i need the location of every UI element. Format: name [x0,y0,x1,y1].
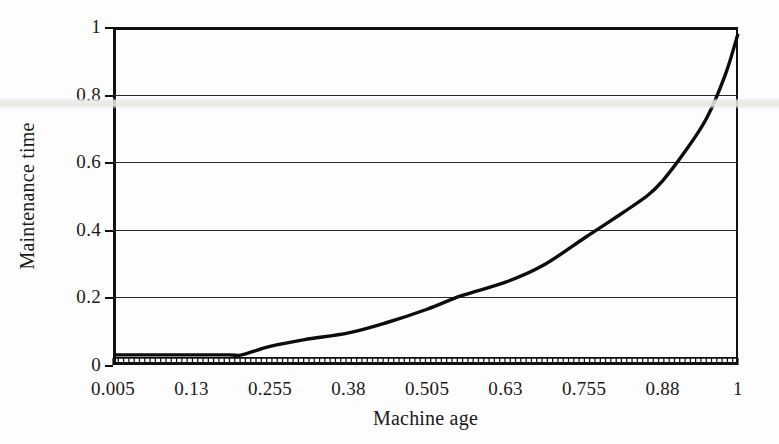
y-tick-label: 0.6 [76,151,101,173]
scanned-page-background: Maintenance time 00.20.40.60.81 0.0050.1… [0,0,779,444]
series-line-maintenance-time [113,34,738,356]
y-tick-mark [105,27,113,29]
y-tick-mark [105,162,113,164]
y-tick-label: 0 [91,354,101,376]
y-tick-mark [105,297,113,299]
x-tick-label: 0.005 [91,378,135,400]
x-tick-label: 0.755 [562,378,606,400]
x-tick-label: 0.13 [174,378,208,400]
y-tick-label: 0.2 [76,286,101,308]
y-tick-label: 0.4 [76,219,101,241]
x-tick-label: 0.505 [405,378,449,400]
data-curve-svg [113,27,738,365]
x-tick-label: 0.38 [331,378,365,400]
y-tick-label: 0.8 [76,84,101,106]
y-tick-mark [105,230,113,232]
y-tick-label: 1 [91,16,101,38]
x-tick-label: 1 [733,378,743,400]
plot-area: 00.20.40.60.81 [113,27,738,365]
y-tick-mark [105,365,113,367]
baseline-hatching [113,358,738,365]
chart-figure: Maintenance time 00.20.40.60.81 0.0050.1… [0,0,779,444]
y-axis-title: Maintenance time [16,122,39,269]
x-tick-label: 0.88 [645,378,679,400]
x-axis-tick-labels: 0.0050.130.2550.380.5050.630.7550.881 [113,378,738,404]
x-axis-title: Machine age [113,407,738,430]
x-tick-label: 0.255 [248,378,292,400]
x-tick-label: 0.63 [488,378,522,400]
y-tick-mark [105,95,113,97]
